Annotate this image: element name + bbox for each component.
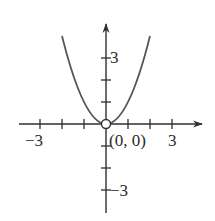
- open-point-origin: [102, 120, 111, 129]
- x-tick-label-3: 3: [168, 131, 177, 150]
- origin-label: (0, 0): [109, 131, 146, 150]
- y-tick-label-3: 3: [110, 48, 119, 67]
- x-tick-label-neg3: −3: [25, 131, 43, 150]
- parabola-graph: −3 3 (0, 0) 3 −3: [0, 0, 215, 221]
- y-tick-label-neg3: −3: [110, 181, 128, 200]
